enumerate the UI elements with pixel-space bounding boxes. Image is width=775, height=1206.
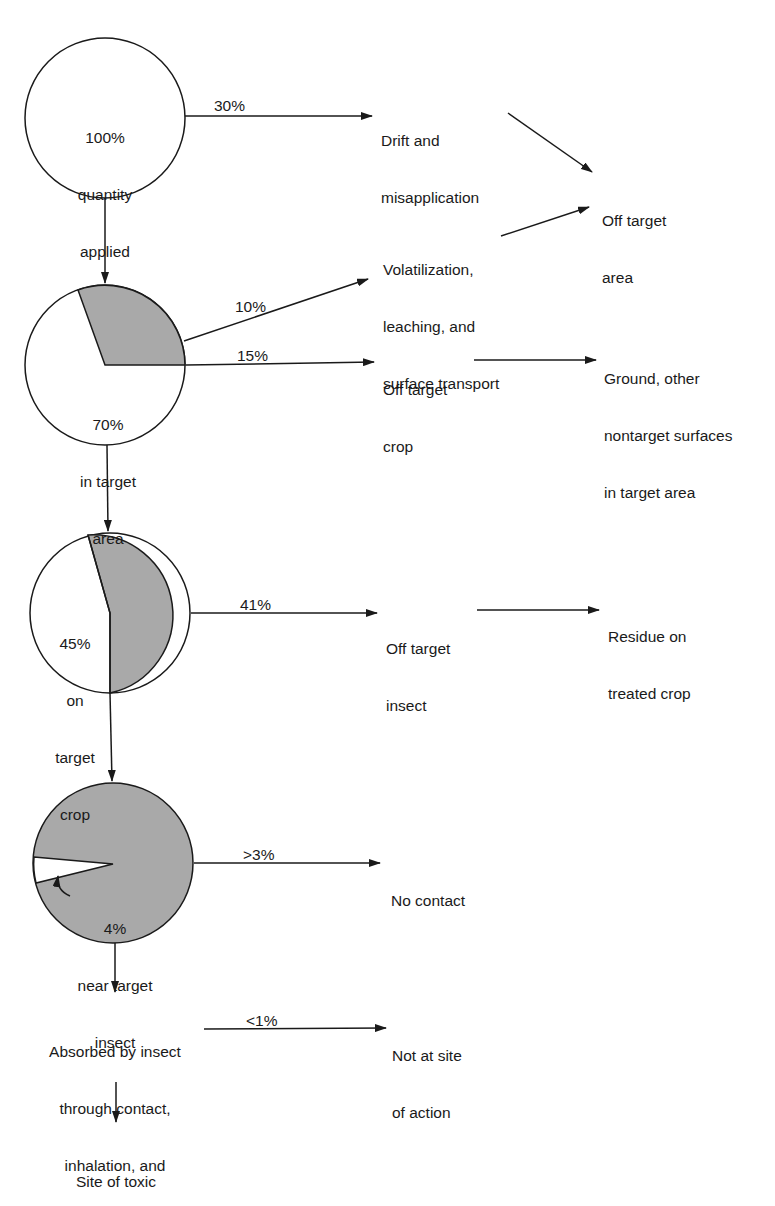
label-line: near target	[60, 976, 170, 995]
node-off-target-area: Off target area	[602, 173, 666, 306]
arrow-vol-to-offarea	[501, 207, 589, 236]
label-line: crop	[383, 437, 447, 456]
node-residue: Residue on treated crop	[608, 589, 691, 722]
node-drift: Drift and misapplication	[381, 93, 479, 226]
label-line: Absorbed by insect	[30, 1042, 200, 1061]
label-quantity-applied: 100% quantity applied	[45, 90, 165, 280]
edge-label-41: 41%	[240, 595, 271, 614]
label-line: area	[48, 529, 168, 548]
label-line: on	[40, 691, 110, 710]
node-off-target-insect: Off target insect	[386, 601, 450, 734]
node-no-contact: No contact	[391, 853, 465, 929]
label-line: Off target	[386, 639, 450, 658]
label-line: 70%	[48, 415, 168, 434]
label-line: through contact,	[30, 1099, 200, 1118]
label-line: in target area	[604, 483, 732, 502]
label-line: Not at site	[392, 1046, 462, 1065]
edge-label-10: 10%	[235, 297, 266, 316]
label-line: Drift and	[381, 131, 479, 150]
label-line: leaching, and	[383, 317, 499, 336]
label-on-target-crop: 45% on target crop	[40, 596, 110, 843]
label-line: Off target	[383, 380, 447, 399]
label-line: Ground, other	[604, 369, 732, 388]
arrow-drift-to-offarea	[508, 113, 592, 172]
arrow-to-off-target-crop	[186, 362, 374, 365]
label-line: of action	[392, 1103, 462, 1122]
label-line: area	[602, 268, 666, 287]
label-line: treated crop	[608, 684, 691, 703]
node-site-toxic-action: Site of toxic action inside insect <<1%	[56, 1134, 176, 1206]
label-line: target	[40, 748, 110, 767]
label-line: misapplication	[381, 188, 479, 207]
label-line: 100%	[45, 128, 165, 147]
label-line: Residue on	[608, 627, 691, 646]
label-line: crop	[40, 805, 110, 824]
node-ground: Ground, other nontarget surfaces in targ…	[604, 331, 732, 521]
edge-label-15: 15%	[237, 346, 268, 365]
label-line: Site of toxic	[56, 1172, 176, 1191]
edge-label-lt1: <1%	[246, 1011, 277, 1030]
edge-label-gt3: >3%	[243, 845, 274, 864]
label-line: 45%	[40, 634, 110, 653]
edge-label-30: 30%	[214, 96, 245, 115]
node-not-at-site: Not at site of action	[392, 1008, 462, 1141]
label-in-target-area: 70% in target area	[48, 377, 168, 567]
label-line: No contact	[391, 891, 465, 910]
label-line: in target	[48, 472, 168, 491]
label-line: quantity	[45, 185, 165, 204]
node-off-target-crop: Off target crop	[383, 342, 447, 475]
label-line: 4%	[60, 919, 170, 938]
arrow-to-volatilization	[184, 279, 368, 341]
label-line: applied	[45, 242, 165, 261]
arrow-c3-to-c4	[110, 693, 112, 781]
arrow-to-not-at-site	[204, 1028, 386, 1029]
label-line: insect	[386, 696, 450, 715]
label-line: Volatilization,	[383, 260, 499, 279]
label-line: nontarget surfaces	[604, 426, 732, 445]
label-line: Off target	[602, 211, 666, 230]
